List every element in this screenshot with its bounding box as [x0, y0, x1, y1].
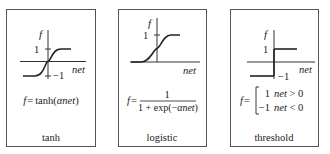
svg-text:f=: f= [240, 95, 250, 106]
panel-threshold: f 1 −1 net f= 1 net > 0 −1 net < 0 thres… [231, 10, 319, 147]
panel-tanh: f 1 −1 net f=tanh(αnet) tanh [7, 10, 96, 147]
formula-denominator: 1 + exp(−αnet) [138, 102, 198, 114]
y-axis-label: f [148, 17, 153, 29]
formula-logistic: f= 1 1 + exp(−αnet) [127, 89, 198, 114]
panel-label: logistic [147, 132, 178, 143]
panel-frame [119, 10, 207, 147]
formula-numerator: 1 [164, 89, 169, 100]
tick-neg-label: −1 [278, 71, 289, 82]
x-axis-label: net [72, 64, 86, 75]
case1-value: 1 [265, 88, 270, 99]
x-axis-label: net [183, 65, 197, 76]
tick-pos-label: 1 [34, 44, 39, 55]
formula-tanh: f=tanh(αnet) [23, 95, 79, 107]
logistic-curve [131, 35, 180, 62]
panel-logistic: f 1 net f= 1 1 + exp(−αnet) logistic [119, 10, 207, 147]
case2-condition: net < 0 [274, 102, 303, 113]
case1-condition: net > 0 [274, 88, 303, 99]
panel-label: tanh [42, 132, 61, 143]
panel-label: threshold [254, 132, 294, 143]
tick-pos-label: 1 [263, 44, 268, 55]
case2-value: −1 [259, 102, 270, 113]
y-axis-label: f [264, 28, 269, 40]
tick-pos-label: 1 [143, 30, 148, 41]
activation-functions-diagram: f 1 −1 net f=tanh(αnet) tanh f 1 net f= … [0, 0, 330, 154]
svg-text:f=: f= [127, 95, 137, 106]
tick-neg-label: −1 [53, 70, 64, 81]
panel-frame [7, 10, 96, 147]
formula-threshold: f= 1 net > 0 −1 net < 0 [240, 87, 303, 114]
x-axis-label: net [299, 64, 313, 75]
y-axis-label: f [39, 28, 44, 40]
